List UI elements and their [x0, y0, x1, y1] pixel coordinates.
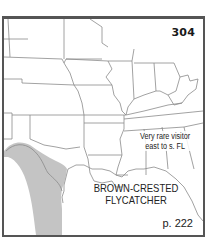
plate-number: 304 — [171, 26, 195, 39]
range-note: Very rare visitor east to s. FL — [135, 131, 195, 151]
range-note-line-2: east to s. FL — [135, 141, 195, 151]
range-note-line-1: Very rare visitor — [135, 131, 195, 141]
range-area — [4, 143, 67, 235]
species-name: BROWN-CRESTED FLYCATCHER — [93, 182, 179, 206]
species-name-line-2: FLYCATCHER — [93, 194, 179, 206]
species-name-line-1: BROWN-CRESTED — [93, 182, 179, 194]
range-map-frame: 304 Very rare visitor east to s. FL BROW… — [2, 16, 205, 237]
page-reference: p. 222 — [162, 217, 193, 229]
